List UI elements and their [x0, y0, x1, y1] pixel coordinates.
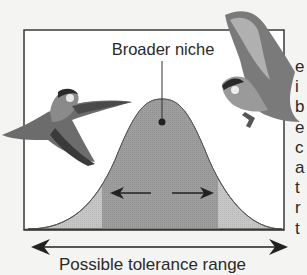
cropped-side-text: e i b e c a t r t: [295, 57, 307, 239]
tolerance-range-label: Possible tolerance range: [20, 255, 285, 275]
side-letter: e: [295, 118, 307, 138]
side-letter: t: [295, 219, 307, 239]
side-letter: i: [295, 77, 307, 97]
side-letter: c: [295, 138, 307, 158]
niche-label: Broader niche: [93, 40, 233, 59]
side-letter: a: [295, 158, 307, 178]
side-letter: t: [295, 178, 307, 198]
side-letter: e: [295, 57, 307, 77]
niche-pointer-dot: [159, 119, 166, 126]
niche-diagram: Broader niche Possible tolerance range e…: [0, 0, 307, 275]
side-letter: b: [295, 97, 307, 117]
side-letter: r: [295, 198, 307, 218]
tolerance-range-arrow: [31, 239, 288, 255]
